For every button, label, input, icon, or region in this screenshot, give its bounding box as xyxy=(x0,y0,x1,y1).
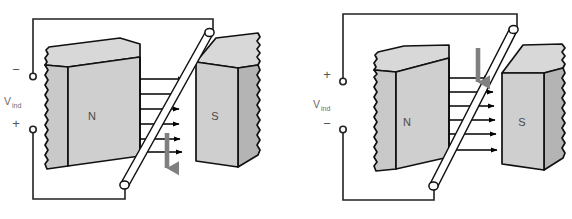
magnet-north-front-face xyxy=(68,57,140,166)
conductor-rod-end-bottom xyxy=(120,181,129,189)
magnet-north-left-face xyxy=(45,65,68,169)
voltage-label: V ind xyxy=(313,98,330,112)
conductor-rod-end-top xyxy=(205,29,214,37)
magnet-north: N xyxy=(374,45,449,171)
magnet-south-label: S xyxy=(518,116,525,128)
voltage-label-subscript: ind xyxy=(321,105,330,112)
magnet-south: S xyxy=(196,33,260,167)
conductor-rod-end-top xyxy=(509,26,518,34)
voltage-label-main: V xyxy=(4,95,11,107)
magnet-south-right-face xyxy=(544,68,565,170)
voltage-label-subscript: ind xyxy=(12,102,21,109)
magnet-south-top-face xyxy=(502,44,565,73)
voltage-label: V ind xyxy=(4,95,21,109)
terminal-top[interactable] xyxy=(30,73,36,79)
voltage-label-main: V xyxy=(313,98,320,110)
panel-left-drawing: − + V ind N xyxy=(0,0,286,219)
magnet-south-right-face xyxy=(238,65,260,167)
terminal-top[interactable] xyxy=(340,78,346,84)
magnet-south-label: S xyxy=(211,110,218,122)
terminal-bottom[interactable] xyxy=(340,126,346,132)
magnet-south: S xyxy=(502,44,565,170)
magnet-north-front-face xyxy=(396,58,449,169)
conductor-rod-end-bottom xyxy=(429,182,438,190)
terminal-sign-top: − xyxy=(12,62,20,77)
terminal-sign-bottom: − xyxy=(323,116,331,131)
magnet-north-label: N xyxy=(88,110,96,122)
terminal-bottom[interactable] xyxy=(30,126,36,132)
panel-downward-motion: − + V ind N xyxy=(0,0,286,219)
panel-upward-motion: + − V ind N S xyxy=(286,0,572,219)
magnet-north: N xyxy=(45,38,140,169)
magnet-north-left-face xyxy=(374,70,396,171)
panel-right-drawing: + − V ind N S xyxy=(286,0,572,219)
induction-figure: − + V ind N xyxy=(0,0,572,219)
magnet-north-label: N xyxy=(403,116,411,128)
terminal-sign-top: + xyxy=(323,67,331,82)
terminal-sign-bottom: + xyxy=(12,116,20,131)
